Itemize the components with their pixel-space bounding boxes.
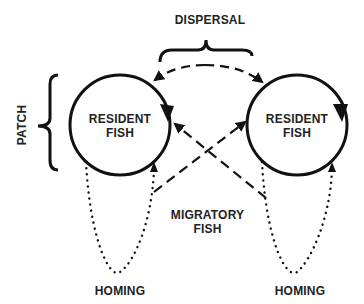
migratory-line2: FISH [160,222,255,236]
resident-left-line1: RESIDENT [75,112,165,126]
resident-right-line2: FISH [252,126,342,140]
homing-loop-right [262,162,332,273]
patch-label: PATCH [15,95,29,155]
migratory-arrow-to-right [154,122,245,192]
dispersal-brace [160,40,252,62]
dispersal-arrow-to-left [155,65,205,80]
homing-loop-left [86,162,154,273]
dispersal-arrow-to-right [205,65,262,82]
resident-fish-left-label: RESIDENT FISH [75,112,165,140]
dispersal-label: DISPERSAL [165,13,255,27]
patch-brace [38,75,58,170]
resident-fish-right-label: RESIDENT FISH [252,112,342,140]
resident-left-line2: FISH [75,126,165,140]
migratory-line1: MIGRATORY [160,208,255,222]
migratory-fish-label: MIGRATORY FISH [160,208,255,236]
fish-movement-diagram [0,0,364,304]
homing-left-label: HOMING [82,284,158,298]
resident-right-line1: RESIDENT [252,112,342,126]
homing-right-label: HOMING [262,284,338,298]
